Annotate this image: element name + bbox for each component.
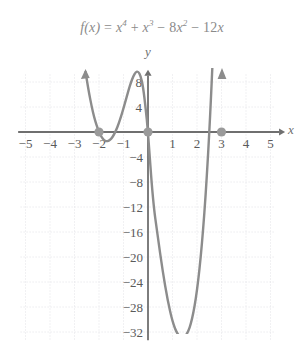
function-curve [86, 0, 223, 337]
function-curve-group [86, 0, 223, 337]
title-term2-exponent: 3 [149, 18, 154, 28]
x-axis-label: x [287, 122, 294, 137]
x-axis-tick-labels: −5−4−3−2−112345 [19, 136, 274, 151]
left-branch-arrowhead [81, 69, 90, 79]
title-equals: = [104, 20, 112, 35]
y-tick-label: 4 [136, 100, 143, 115]
coordinate-plane: −5−4−3−2−112345 84−4−8−12−16−20−24−28−32… [0, 0, 304, 341]
axes [18, 70, 285, 340]
title-fx: f(x) [80, 20, 100, 35]
x-tick-label: −5 [19, 136, 33, 151]
y-axis-tick-labels: 84−4−8−12−16−20−24−28−32 [123, 75, 144, 340]
title-term3-exponent: 2 [183, 18, 188, 28]
x-tick-label: 3 [218, 136, 225, 151]
y-axis-arrowhead [144, 70, 151, 76]
y-tick-label: −28 [123, 300, 143, 315]
x-tick-label: 4 [243, 136, 250, 151]
y-tick-label: −32 [123, 325, 143, 340]
function-graph-figure: f(x) = x4 + x3 − 8x2 − 12x −5−4−3−2−1123… [0, 0, 304, 341]
title-term4-coefficient: 12 [203, 20, 217, 35]
title-minus-2: − [191, 20, 199, 35]
root-marker [217, 127, 226, 136]
x-tick-label: −3 [68, 136, 82, 151]
title-plus: + [131, 20, 139, 35]
x-tick-label: 5 [267, 136, 274, 151]
curve-direction-arrows [81, 68, 226, 79]
y-tick-label: −16 [123, 225, 144, 240]
title-minus-1: − [157, 20, 165, 35]
y-tick-label: −20 [123, 250, 143, 265]
right-branch-arrowhead [218, 68, 227, 79]
y-tick-label: −8 [129, 175, 143, 190]
x-axis-arrowhead [279, 128, 285, 135]
y-tick-label: −4 [129, 150, 143, 165]
y-tick-label: −12 [123, 200, 143, 215]
x-tick-label: 2 [194, 136, 201, 151]
root-marker [94, 127, 103, 136]
y-tick-label: −24 [123, 275, 144, 290]
x-tick-label: 1 [169, 136, 176, 151]
root-marker [143, 127, 152, 136]
function-title: f(x) = x4 + x3 − 8x2 − 12x [0, 18, 304, 36]
title-term4-base: x [217, 20, 223, 35]
y-axis-label: y [143, 44, 151, 59]
title-term1-exponent: 4 [122, 18, 127, 28]
x-tick-label: −4 [43, 136, 57, 151]
